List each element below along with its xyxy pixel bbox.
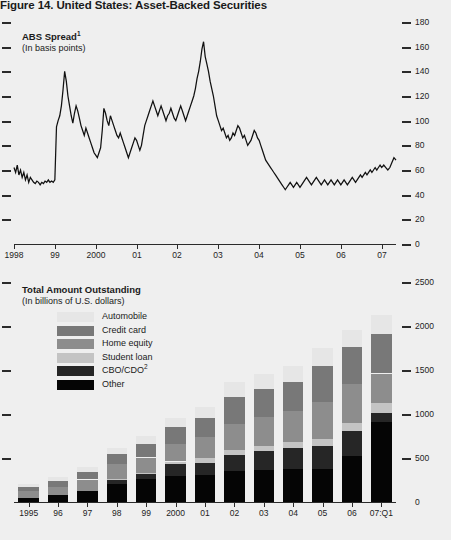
x-tick [87, 502, 88, 507]
x-tick [234, 502, 235, 507]
x-tick [205, 502, 206, 507]
bar-segment [48, 477, 69, 481]
table-row-bar-01 [195, 282, 216, 502]
bar-segment [342, 384, 363, 423]
bar-segment [165, 427, 186, 444]
bar-segment [254, 374, 275, 389]
bar-segment [18, 491, 39, 498]
bar-segment [312, 366, 333, 402]
bar-segment [136, 436, 157, 444]
bar-segment [283, 442, 304, 448]
y-tick-right [402, 370, 411, 372]
bar-segment [312, 439, 333, 446]
bar-segment [165, 462, 186, 465]
bar-segment [312, 402, 333, 439]
table-row-bar-2000 [165, 282, 186, 502]
y-tick-left [2, 326, 11, 328]
bar-segment [312, 446, 333, 469]
x-tick [117, 502, 118, 507]
bar-segment [195, 458, 216, 463]
bar-segment [107, 454, 128, 464]
bar-segment [224, 382, 245, 397]
bar-segment [342, 423, 363, 431]
bar-segment [136, 474, 157, 479]
x-tick [58, 502, 59, 507]
x-tick [146, 502, 147, 507]
table-row-bar-06 [342, 282, 363, 502]
bar-segment [254, 451, 275, 470]
table-row-bar-99 [136, 282, 157, 502]
bar-segment [48, 487, 69, 495]
x-tick [323, 502, 324, 507]
y-tick-label: 1500 [415, 366, 434, 374]
table-row-bar-03 [254, 282, 275, 502]
table-row-bar-07Q1 [371, 282, 392, 502]
bar-segment [107, 464, 128, 479]
table-row-bar-1995 [18, 282, 39, 502]
x-tick [293, 502, 294, 507]
bar-segment [165, 476, 186, 502]
bar-segment [18, 484, 39, 487]
total-outstanding-panel: Total Amount Outstanding (In billions of… [0, 270, 451, 540]
bar-segment [107, 448, 128, 454]
bar-segment [77, 491, 98, 502]
bar-segment [371, 315, 392, 334]
y-tick-right [402, 326, 411, 328]
bar-segment [136, 473, 157, 474]
x-tick [176, 502, 177, 507]
bar-segment [224, 397, 245, 424]
bar-segment [371, 334, 392, 374]
bar-segment [48, 495, 69, 502]
y-tick-left [2, 370, 11, 372]
y-tick-label: 0 [415, 498, 420, 506]
y-tick-right [402, 414, 411, 416]
table-row-bar-05 [312, 282, 333, 502]
y-tick-label: 2500 [415, 278, 434, 286]
bar-segment [224, 450, 245, 455]
bar-segment [136, 458, 157, 473]
table-row-bar-98 [107, 282, 128, 502]
bar-segment [342, 330, 363, 348]
bar-segment [224, 424, 245, 450]
y-tick-label: 500 [415, 454, 429, 462]
bar-segment [283, 448, 304, 469]
bar-segment [195, 463, 216, 475]
y-tick-right [402, 458, 411, 460]
bar-segment [371, 403, 392, 413]
bar-segment [136, 444, 157, 458]
bar-segment [165, 464, 186, 475]
bar-segment [283, 382, 304, 411]
bar-segment [342, 456, 363, 502]
x-tick-label: 07:Q1 [359, 509, 403, 518]
bar-segment [254, 417, 275, 446]
bar-segment [195, 418, 216, 437]
table-row-bar-02 [224, 282, 245, 502]
x-tick [352, 502, 353, 507]
bar-segment [195, 437, 216, 458]
bar-segment [312, 348, 333, 366]
x-tick [264, 502, 265, 507]
table-row-bar-04 [283, 282, 304, 502]
y-tick-label: 2000 [415, 322, 434, 330]
bar-segment [195, 475, 216, 502]
bar-segment [371, 422, 392, 502]
bar-segment [107, 479, 128, 480]
y-tick-label: 1000 [415, 410, 434, 418]
table-row-bar-96 [48, 282, 69, 502]
bar-segment [283, 411, 304, 442]
bar-segment [254, 470, 275, 502]
bar-segment [48, 480, 69, 487]
bar-segment [165, 444, 186, 462]
bar-segment [371, 374, 392, 404]
bar-segment [18, 487, 39, 491]
bar-segment [107, 484, 128, 502]
bar-segment [136, 479, 157, 502]
abs-spread-line [0, 0, 451, 270]
bar-segment [342, 347, 363, 384]
bar-segment [254, 389, 275, 416]
bar-segment [312, 469, 333, 502]
bar-segment [107, 480, 128, 484]
y-tick-left [2, 282, 11, 284]
bar-segment [342, 431, 363, 457]
abs-spread-panel: ABS Spread1 (In basis points) 0204060801… [0, 0, 451, 270]
